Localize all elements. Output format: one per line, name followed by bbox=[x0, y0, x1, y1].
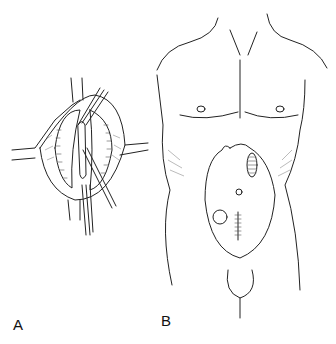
panel-label-b: B bbox=[161, 312, 171, 329]
panel-label-a: A bbox=[13, 316, 23, 333]
panel-b-drawing bbox=[157, 14, 327, 318]
panel-a-drawing bbox=[12, 78, 148, 235]
illustration bbox=[0, 0, 336, 344]
